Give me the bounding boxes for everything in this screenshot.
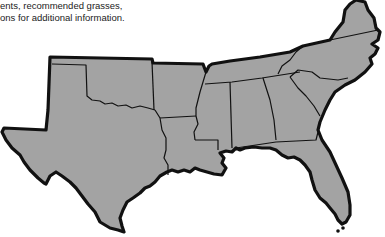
florida-keys-dot-1 [336,229,340,233]
southeast-region-map [0,0,385,237]
florida-keys-dot-2 [341,226,345,230]
